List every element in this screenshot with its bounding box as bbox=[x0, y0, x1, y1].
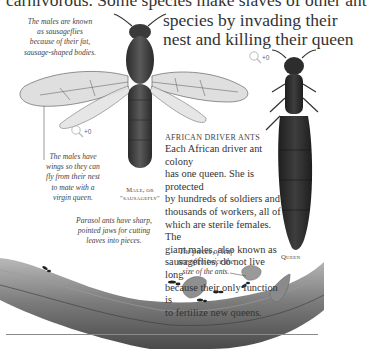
article-african-driver-ants: African driver ants Each African driver … bbox=[165, 133, 285, 319]
label-queen: Queen bbox=[281, 253, 300, 260]
zoom-level-label: +0 bbox=[262, 54, 269, 61]
caption-sausageflies: The males are known as sausageflies beca… bbox=[14, 17, 106, 58]
caption-leaf-pieces: The pieces of leaf are often twice the s… bbox=[170, 247, 242, 278]
zoom-indicator-queen[interactable]: +0 bbox=[248, 50, 264, 68]
page-divider bbox=[6, 334, 318, 335]
zoom-indicator-male-wing[interactable]: +0 bbox=[70, 124, 86, 142]
zoom-level-label: +0 bbox=[84, 128, 91, 135]
caption-wings: The males have wings so they can fly fro… bbox=[38, 152, 108, 203]
label-male-sausagefly: Male, or "sausagefly" bbox=[110, 186, 170, 202]
article-heading: African driver ants bbox=[165, 133, 285, 143]
caption-parasol-ants: Parasol ants have sharp, pointed jaws fo… bbox=[64, 216, 164, 247]
article-body: Each African driver ant colony has one q… bbox=[165, 143, 285, 319]
